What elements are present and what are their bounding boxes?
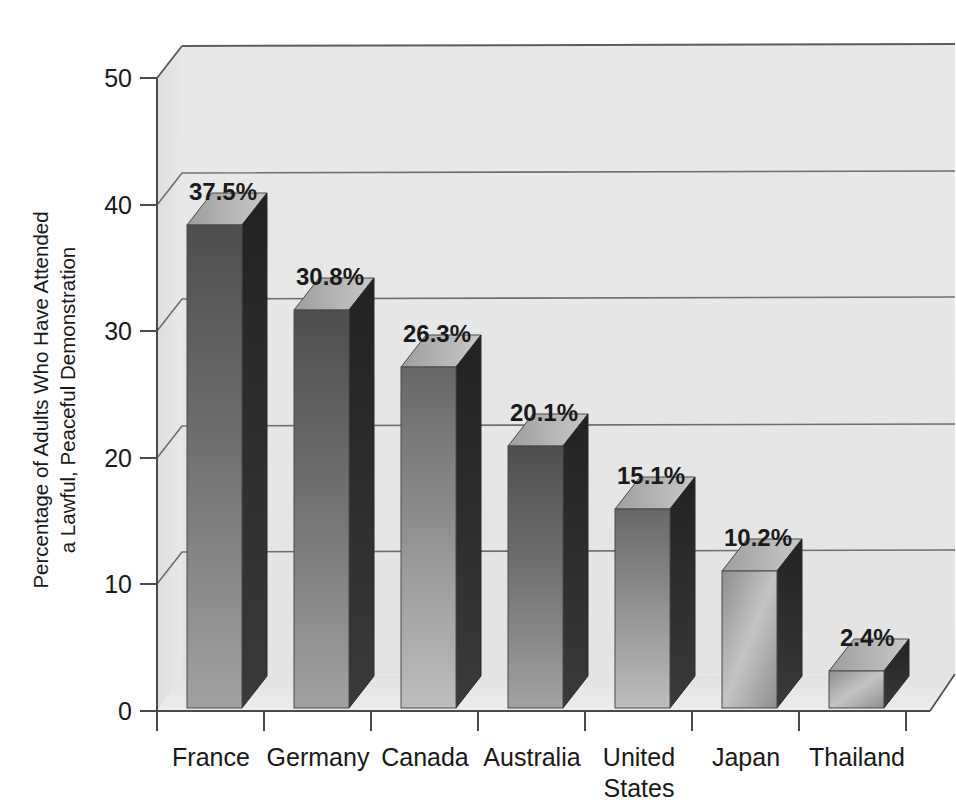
y-tick-label-10: 10: [104, 570, 132, 598]
x-tick-label-thailand: Thailand: [809, 743, 905, 771]
bar-label-australia: 20.1%: [510, 399, 578, 426]
bar-front-face: [508, 446, 563, 708]
x-tick-label-germany: Germany: [267, 743, 370, 771]
y-axis-title-line-1: Percentage of Adults Who Have Attended: [29, 211, 52, 588]
x-tick-label-united-states-line-1: United: [603, 743, 675, 771]
bar-united-states[interactable]: [615, 477, 695, 708]
bar-label-united-states: 15.1%: [617, 462, 685, 489]
bar-front-face: [187, 225, 242, 708]
chart-page: 50 40 30 20 10 0 Percentage of Adults Wh…: [0, 0, 956, 812]
bar-front-face: [722, 571, 777, 708]
x-tick-label-united-states-line-2: States: [604, 774, 675, 802]
bar-japan[interactable]: [722, 539, 802, 708]
x-tick-label-france: France: [172, 743, 250, 771]
y-tick-label-0: 0: [118, 697, 132, 725]
x-tick-label-canada: Canada: [381, 743, 469, 771]
x-tick-label-australia: Australia: [483, 743, 580, 771]
y-axis-title: Percentage of Adults Who Have Attended a…: [29, 211, 79, 588]
bar-side-face: [563, 414, 588, 708]
bar-label-thailand: 2.4%: [840, 624, 895, 651]
x-tick-marks: [157, 711, 906, 731]
y-axis-title-line-2: a Lawful, Peaceful Demonstration: [56, 247, 79, 554]
bar-front-face: [829, 671, 884, 708]
bar-france[interactable]: [187, 193, 267, 708]
x-tick-labels: France Germany Canada Australia United S…: [172, 743, 905, 802]
bar-australia[interactable]: [508, 414, 588, 708]
bar-label-canada: 26.3%: [403, 320, 471, 347]
plot-left-wall: [157, 46, 182, 711]
bar-front-face: [401, 367, 456, 708]
bar-front-face: [294, 310, 349, 708]
bar-label-germany: 30.8%: [296, 263, 364, 290]
bar-chart-3d: 50 40 30 20 10 0 Percentage of Adults Wh…: [0, 0, 956, 812]
bar-germany[interactable]: [294, 278, 374, 708]
y-tick-labels: 50 40 30 20 10 0: [104, 64, 132, 725]
bar-side-face: [456, 335, 481, 708]
y-tick-label-20: 20: [104, 444, 132, 472]
y-tick-marks: [140, 78, 157, 711]
y-tick-label-30: 30: [104, 317, 132, 345]
x-tick-label-japan: Japan: [712, 743, 780, 771]
bar-side-face: [670, 477, 695, 708]
bar-side-face: [242, 193, 267, 708]
bar-label-japan: 10.2%: [724, 524, 792, 551]
y-tick-label-40: 40: [104, 191, 132, 219]
y-tick-label-50: 50: [104, 64, 132, 92]
bar-front-face: [615, 509, 670, 708]
bar-label-france: 37.5%: [189, 178, 257, 205]
bar-canada[interactable]: [401, 335, 481, 708]
bar-side-face: [349, 278, 374, 708]
